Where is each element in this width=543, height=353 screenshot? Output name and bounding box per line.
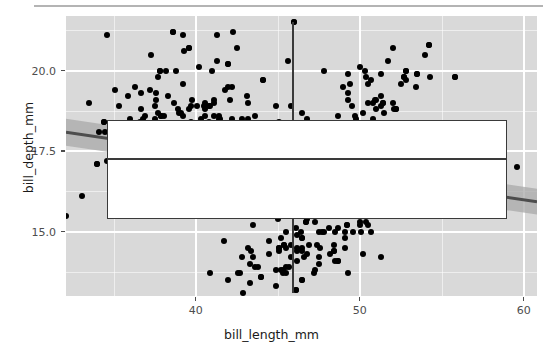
scatter-point — [316, 229, 322, 235]
scatter-point — [211, 97, 217, 103]
scatter-point — [155, 74, 161, 80]
x-tick-mark — [359, 297, 360, 301]
scatter-point — [255, 264, 261, 270]
scatter-point — [332, 229, 338, 235]
scatter-point — [390, 100, 396, 106]
scatter-point — [227, 97, 233, 103]
scatter-point — [229, 84, 235, 90]
scatter-point — [96, 129, 102, 135]
scatter-point — [378, 71, 384, 77]
scatter-point — [306, 242, 312, 248]
scatter-point — [352, 113, 358, 119]
scatter-point — [350, 229, 356, 235]
scatter-point — [285, 58, 291, 64]
scatter-point — [180, 113, 186, 119]
scatter-point — [278, 235, 284, 241]
scatter-point — [258, 274, 264, 280]
scatter-point — [148, 52, 154, 58]
scatter-point — [390, 45, 396, 51]
scatter-point — [360, 110, 366, 116]
x-tick-mark — [195, 297, 196, 301]
scatter-point — [426, 42, 432, 48]
scatter-point — [365, 100, 371, 106]
scatter-point — [321, 68, 327, 74]
scatter-point — [221, 238, 227, 244]
scatter-point — [368, 229, 374, 235]
scatter-point — [214, 58, 220, 64]
boxplot-whisker-lower — [292, 219, 293, 293]
scatter-point — [209, 68, 215, 74]
scatter-point — [101, 119, 107, 125]
scatter-point — [247, 261, 253, 267]
x-axis-title: bill_length_mm — [0, 327, 543, 342]
scatter-point — [132, 84, 138, 90]
plot-panel — [66, 16, 537, 296]
scatter-point — [281, 242, 287, 248]
scatter-point — [299, 110, 305, 116]
scatter-point — [357, 219, 363, 225]
scatter-point — [345, 97, 351, 103]
scatter-point — [188, 103, 194, 109]
scatter-point — [116, 103, 122, 109]
scatter-point — [381, 110, 387, 116]
scatter-point — [283, 229, 289, 235]
x-tick-label: 50 — [340, 305, 380, 316]
y-axis-title: bill_depth_mm — [21, 58, 36, 238]
x-tick-label: 40 — [176, 305, 216, 316]
scatter-point — [316, 261, 322, 267]
top-divider-rule — [34, 5, 543, 7]
scatter-point — [344, 222, 350, 228]
scatter-point — [349, 103, 355, 109]
boxplot-median-line — [107, 158, 507, 160]
y-tick-mark — [61, 150, 65, 151]
scatter-point — [403, 68, 409, 74]
scatter-point — [86, 100, 92, 106]
scatter-point — [234, 45, 240, 51]
scatter-point — [362, 68, 368, 74]
scatter-point — [152, 103, 158, 109]
y-tick-mark — [61, 70, 65, 71]
boxplot-whisker-upper — [292, 22, 293, 120]
scatter-point — [173, 68, 179, 74]
scatter-point — [373, 97, 379, 103]
x-tick-label: 60 — [504, 305, 543, 316]
scatter-point — [331, 248, 337, 254]
scatter-point — [153, 97, 159, 103]
scatter-point — [347, 81, 353, 87]
scatter-point — [342, 245, 348, 251]
scatter-point — [180, 81, 186, 87]
scatter-point — [157, 68, 163, 74]
scatter-point — [163, 68, 169, 74]
scatter-point — [247, 280, 253, 286]
scatter-point — [180, 32, 186, 38]
boxplot-box — [107, 120, 507, 219]
scatter-point — [342, 229, 348, 235]
scatter-point — [331, 242, 337, 248]
scatter-point — [385, 58, 391, 64]
scatter-point — [170, 29, 176, 35]
scatter-point — [314, 242, 320, 248]
scatter-point — [158, 113, 164, 119]
scatter-point — [342, 235, 348, 241]
y-tick-mark — [61, 231, 65, 232]
scatter-point — [240, 290, 246, 296]
scatter-point — [239, 254, 245, 260]
scatter-point — [303, 219, 309, 225]
scatter-point — [413, 84, 419, 90]
scatter-point — [298, 229, 304, 235]
scatter-point — [147, 87, 153, 93]
plot-figure: 15.017.520.0 405060 bill_length_mm bill_… — [0, 0, 543, 353]
x-tick-mark — [523, 297, 524, 301]
scatter-point — [252, 113, 258, 119]
